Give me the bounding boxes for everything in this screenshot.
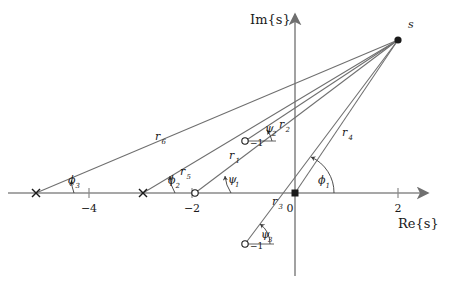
- tick-label-imag-plus-1: −1: [250, 138, 263, 148]
- label-r6: r 6: [155, 130, 167, 146]
- svg-text:6: 6: [162, 138, 167, 146]
- svg-text:r: r: [342, 126, 348, 139]
- svg-text:3: 3: [268, 236, 273, 244]
- test-point-label: s: [408, 18, 414, 31]
- s-plane-diagram: Im{s} Re{s} s −4 −2 0 2 −1 −1 r 6 r 5 r …: [0, 0, 461, 284]
- vector-r1: [195, 40, 398, 193]
- tick-label-minus-4: −4: [81, 202, 97, 215]
- svg-text:r: r: [229, 149, 235, 162]
- label-r1: r 1: [229, 149, 240, 165]
- imaginary-axis-label: Im{s}: [250, 12, 291, 27]
- markers-group: [32, 36, 402, 247]
- svg-text:4: 4: [348, 134, 353, 142]
- zero-marker-z3: [242, 241, 248, 247]
- svg-text:5: 5: [187, 173, 192, 181]
- test-point-s: [394, 36, 401, 43]
- real-axis-label: Re{s}: [398, 216, 439, 231]
- label-r2: r 2: [279, 118, 291, 134]
- svg-text:1: 1: [326, 182, 330, 190]
- svg-text:2: 2: [175, 182, 181, 190]
- label-phi1: ϕ 1: [318, 174, 330, 190]
- svg-text:1: 1: [236, 157, 240, 165]
- vector-r6: [36, 40, 398, 193]
- label-phi3: ϕ 3: [68, 174, 81, 190]
- svg-text:r: r: [155, 130, 161, 143]
- vector-r4: [295, 40, 398, 193]
- tick-label-plus-2: 2: [395, 202, 402, 215]
- label-r4: r 4: [342, 126, 353, 142]
- svg-text:1: 1: [235, 181, 239, 189]
- tick-label-minus-2: −2: [184, 202, 200, 215]
- pole-marker-origin: [292, 190, 299, 197]
- tick-label-imag-minus-1: −1: [250, 241, 263, 251]
- svg-text:2: 2: [271, 130, 277, 138]
- svg-text:3: 3: [279, 203, 284, 211]
- svg-text:3: 3: [76, 182, 81, 190]
- svg-text:r: r: [279, 118, 285, 131]
- tick-label-origin: 0: [287, 202, 294, 215]
- zero-marker-z1: [192, 190, 198, 196]
- labels-group: Im{s} Re{s} s −4 −2 0 2 −1 −1 r 6 r 5 r …: [68, 12, 439, 251]
- svg-text:r: r: [272, 195, 278, 208]
- zero-marker-z2: [242, 138, 248, 144]
- label-psi1: ψ 1: [228, 173, 239, 189]
- pole-zero-figure: Im{s} Re{s} s −4 −2 0 2 −1 −1 r 6 r 5 r …: [0, 0, 461, 284]
- axes-group: [8, 14, 428, 276]
- svg-text:2: 2: [285, 126, 291, 134]
- vector-r3: [245, 40, 398, 244]
- label-phi2: ϕ 2: [168, 174, 181, 190]
- svg-text:r: r: [180, 165, 186, 178]
- label-r3: r 3: [272, 195, 284, 211]
